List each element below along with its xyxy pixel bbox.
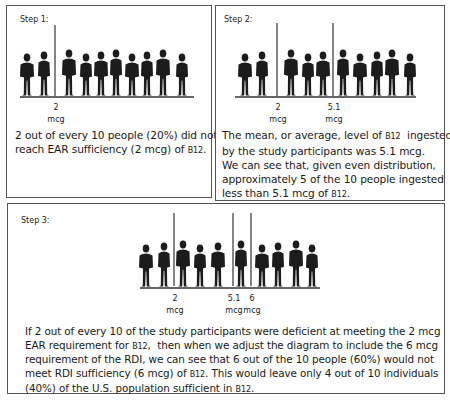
person-silhouette-icon <box>80 54 92 96</box>
person-silhouette-icon <box>156 50 170 96</box>
person-silhouette-icon <box>141 52 153 96</box>
caption-line: If 2 out of every 10 of the study partic… <box>25 325 443 339</box>
threshold-label: 6mcg <box>237 293 267 317</box>
step2-caption: The mean, or average, level of B12 inges… <box>222 128 444 202</box>
person-silhouette-icon <box>235 241 247 287</box>
step2-panel: Step 2: 2mcg5.1mcg The mean, or average,… <box>215 5 445 201</box>
threshold-label: 2mcg <box>41 102 71 126</box>
caption-line: 2 out of every 10 people (20%) did not <box>15 128 211 142</box>
threshold-label: 2mcg <box>160 293 190 317</box>
caption-line: We can see that, given even distribution… <box>222 158 444 172</box>
caption-line: reach EAR sufficiency (2 mcg) of B12. <box>15 142 211 158</box>
caption-line: The mean, or average, level of B12 inges… <box>222 128 444 144</box>
caption-line: (40%) of the U.S. population sufficient … <box>25 382 443 397</box>
person-silhouette-icon <box>337 50 349 96</box>
caption-line: by the study participants was 5.1 mcg. <box>222 144 444 158</box>
caption-line: approximately 5 of the 10 people ingeste… <box>222 172 444 186</box>
person-silhouette-icon <box>62 50 76 96</box>
threshold-label: 2mcg <box>263 102 293 126</box>
person-silhouette-icon <box>316 52 330 96</box>
threshold-label: 5.1mcg <box>319 102 349 126</box>
person-silhouette-icon <box>194 245 206 287</box>
person-silhouette-icon <box>94 52 108 96</box>
step3-panel: Step 3: 2mcg5.1mcg6mcg If 2 out of every… <box>7 203 445 394</box>
person-silhouette-icon <box>306 245 318 287</box>
step1-panel: Step 1: 2mcg 2 out of every 10 people (2… <box>6 5 212 198</box>
person-silhouette-icon <box>284 50 298 96</box>
person-silhouette-icon <box>125 54 139 96</box>
step3-caption: If 2 out of every 10 of the study partic… <box>25 325 443 397</box>
person-silhouette-icon <box>158 243 170 287</box>
caption-line: requirement of the RDI, we can see that … <box>25 353 443 367</box>
person-silhouette-icon <box>176 54 188 96</box>
step1-caption: 2 out of every 10 people (20%) did notre… <box>15 128 211 158</box>
person-silhouette-icon <box>272 243 284 287</box>
caption-line: meet RDI sufficiency (6 mcg) of B12. Thi… <box>25 367 443 382</box>
person-silhouette-icon <box>302 54 314 96</box>
person-silhouette-icon <box>353 54 367 96</box>
person-silhouette-icon <box>176 241 190 287</box>
person-silhouette-icon <box>38 52 50 96</box>
person-silhouette-icon <box>371 52 383 96</box>
person-silhouette-icon <box>256 52 268 96</box>
person-silhouette-icon <box>404 54 416 96</box>
person-silhouette-icon <box>211 243 225 287</box>
person-silhouette-icon <box>385 50 399 96</box>
person-silhouette-icon <box>289 241 303 287</box>
person-silhouette-icon <box>139 245 153 287</box>
person-silhouette-icon <box>110 50 122 96</box>
person-silhouette-icon <box>20 54 34 96</box>
step1-diagram <box>7 6 213 136</box>
caption-line: less than 5.1 mcg of B12. <box>222 186 444 202</box>
person-silhouette-icon <box>255 245 269 287</box>
caption-line: EAR requirement for B12, then when we ad… <box>25 339 443 354</box>
person-silhouette-icon <box>238 54 252 96</box>
